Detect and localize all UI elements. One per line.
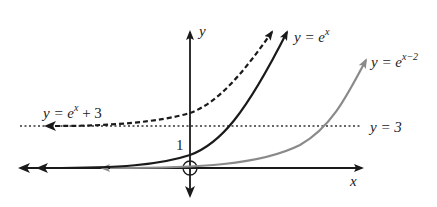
- label-text: y = e: [371, 54, 402, 70]
- label-e-x-minus-2: y = ex−2: [371, 55, 418, 70]
- asymptote-label: y = 3: [370, 120, 402, 135]
- y-intercept-label: 1: [176, 138, 184, 153]
- label-text: y = e: [43, 105, 74, 121]
- label-e-x: y = ex: [294, 30, 329, 45]
- graph-canvas: [0, 0, 437, 207]
- label-exponent: x: [325, 26, 329, 37]
- curve-e-x: [48, 32, 287, 168]
- x-axis-label: x: [350, 174, 357, 189]
- dashed-left-arrow-icon: [44, 121, 56, 131]
- y-axis-label: y: [199, 24, 206, 39]
- label-suffix: + 3: [78, 105, 101, 121]
- label-exponent: x: [74, 102, 78, 113]
- label-e-x-plus-3: y = ex + 3: [43, 106, 102, 121]
- label-text: y = e: [294, 29, 325, 45]
- label-exponent: x−2: [402, 51, 418, 62]
